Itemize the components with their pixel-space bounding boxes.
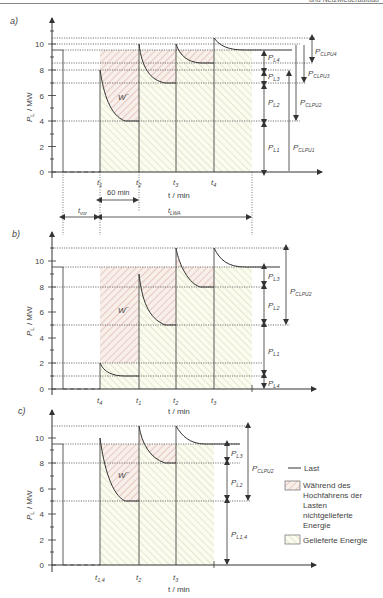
svg-text:PL2: PL2 <box>268 301 279 311</box>
svg-text:0: 0 <box>40 168 45 177</box>
svg-text:4: 4 <box>40 334 45 343</box>
svg-text:PL3: PL3 <box>268 72 280 82</box>
svg-text:PCLPU2: PCLPU2 <box>290 287 312 297</box>
y-axis-label: PL / MW <box>25 92 35 122</box>
panel-b-label: b) <box>12 229 20 239</box>
svg-text:PL1: PL1 <box>268 143 279 153</box>
panel-a: a) <box>10 16 337 235</box>
y-tick-labels: 0 2 4 6 8 10 <box>35 257 44 394</box>
legend-delivered-swatch <box>285 535 300 544</box>
svg-text:8: 8 <box>40 66 45 75</box>
svg-text:PCLPU2: PCLPU2 <box>300 98 322 108</box>
svg-text:4: 4 <box>40 510 45 519</box>
tlwa-label: tLWA <box>168 206 181 216</box>
svg-text:PL1,4: PL1,4 <box>231 530 247 540</box>
svg-text:10: 10 <box>35 257 44 266</box>
pl-labels: PL3 PL2 PL1 PL4 PCLPU2 <box>268 272 312 389</box>
svg-text:PL2: PL2 <box>268 98 279 108</box>
svg-text:PCLPU4: PCLPU4 <box>315 47 337 57</box>
legend: Last Während des Hochfahrens der Lasten … <box>285 464 368 545</box>
svg-text:PL1: PL1 <box>268 347 279 357</box>
svg-text:t1: t1 <box>136 396 141 406</box>
svg-text:Während des: Während des <box>303 481 351 490</box>
x-tick-labels: t4 t1 t2 t3 <box>97 396 217 406</box>
legend-not-delivered-label: Während des Hochfahrens der Lasten nicht… <box>303 481 362 530</box>
legend-not-delivered-swatch <box>285 481 300 490</box>
svg-text:8: 8 <box>40 283 45 292</box>
svg-text:t1,4: t1,4 <box>95 573 105 583</box>
svg-text:PL3: PL3 <box>231 449 243 459</box>
svg-text:8: 8 <box>40 459 45 468</box>
y-axis-label: PL / MW <box>25 306 35 336</box>
tvor-label: tvor <box>78 206 87 216</box>
svg-text:PL2: PL2 <box>231 478 242 488</box>
svg-text:t2: t2 <box>173 396 178 406</box>
legend-delivered-label: Gelieferte Energie <box>303 536 368 545</box>
svg-text:Hochfahrens der: Hochfahrens der <box>303 491 362 500</box>
svg-text:PCLPU1: PCLPU1 <box>293 143 315 153</box>
figure-canvas: a) <box>0 0 383 598</box>
svg-text:6: 6 <box>40 485 45 494</box>
svg-text:t3: t3 <box>173 573 179 583</box>
x-tick-labels: t1 t2 t3 t4 <box>97 178 216 188</box>
x-axis-label: t / min <box>168 585 190 594</box>
svg-text:6: 6 <box>40 92 45 101</box>
svg-text:t2: t2 <box>136 573 141 583</box>
svg-text:PCLPU2: PCLPU2 <box>252 464 274 474</box>
pl-arrows <box>227 427 248 564</box>
svg-text:2: 2 <box>40 359 45 368</box>
svg-text:6: 6 <box>40 308 45 317</box>
svg-text:PL4: PL4 <box>268 379 279 389</box>
svg-text:nichtgelieferte: nichtgelieferte <box>303 511 353 520</box>
svg-text:Lasten: Lasten <box>303 501 327 510</box>
svg-text:10: 10 <box>35 40 44 49</box>
x-tick-labels: t1,4 t2 t3 <box>95 573 179 583</box>
sixty-min-label: 60 min <box>107 188 130 197</box>
svg-text:Energie: Energie <box>303 521 331 530</box>
svg-text:PL3: PL3 <box>268 272 280 282</box>
x-axis-label: t / min <box>168 407 190 416</box>
panel-a-label: a) <box>10 16 18 26</box>
y-tick-labels: 0 2 4 6 8 10 <box>35 434 44 570</box>
svg-text:t4: t4 <box>97 396 102 406</box>
svg-text:10: 10 <box>35 434 44 443</box>
svg-text:4: 4 <box>40 117 45 126</box>
x-axis-label: t / min <box>168 191 190 200</box>
svg-text:2: 2 <box>40 143 45 152</box>
legend-load-label: Last <box>304 464 320 473</box>
y-axis-label: PL / MW <box>25 490 35 520</box>
svg-text:PCLPU3: PCLPU3 <box>308 69 330 79</box>
svg-text:t3: t3 <box>173 178 179 188</box>
y-tick-labels: 0 2 4 6 8 10 <box>35 40 44 177</box>
svg-text:0: 0 <box>40 561 45 570</box>
svg-text:PL4: PL4 <box>268 53 279 63</box>
panel-c: c) <box>18 406 316 594</box>
panel-b: b) <box>12 229 316 416</box>
svg-text:t4: t4 <box>211 178 216 188</box>
svg-text:t3: t3 <box>211 396 217 406</box>
panel-c-label: c) <box>18 406 26 416</box>
pl-arrows <box>264 249 286 388</box>
svg-text:0: 0 <box>40 385 45 394</box>
svg-text:2: 2 <box>40 536 45 545</box>
